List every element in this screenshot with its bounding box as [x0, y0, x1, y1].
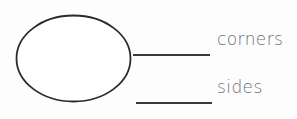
- ellipse-outline-icon: [17, 16, 131, 102]
- answer-blank-corners[interactable]: [133, 54, 210, 56]
- answer-label-corners: corners: [217, 31, 283, 48]
- worksheet-canvas: corners sides: [0, 0, 297, 119]
- answer-blank-sides[interactable]: [136, 102, 212, 104]
- answer-label-sides: sides: [217, 79, 263, 96]
